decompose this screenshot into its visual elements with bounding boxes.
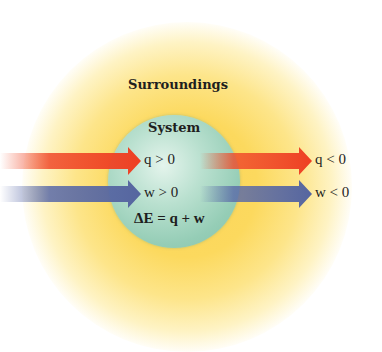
heat-out-arrow bbox=[200, 147, 312, 175]
heat-out-label: q < 0 bbox=[315, 151, 346, 168]
work-in-arrow bbox=[0, 180, 141, 208]
heat-in-arrow bbox=[0, 147, 141, 175]
surroundings-label: Surroundings bbox=[128, 77, 228, 92]
work-out-label: w < 0 bbox=[315, 184, 349, 201]
work-in-label: w > 0 bbox=[144, 184, 178, 201]
energy-equation: ΔE = q + w bbox=[134, 210, 205, 227]
heat-in-label: q > 0 bbox=[144, 151, 175, 168]
work-out-arrow bbox=[200, 180, 312, 208]
system-label: System bbox=[148, 120, 200, 135]
